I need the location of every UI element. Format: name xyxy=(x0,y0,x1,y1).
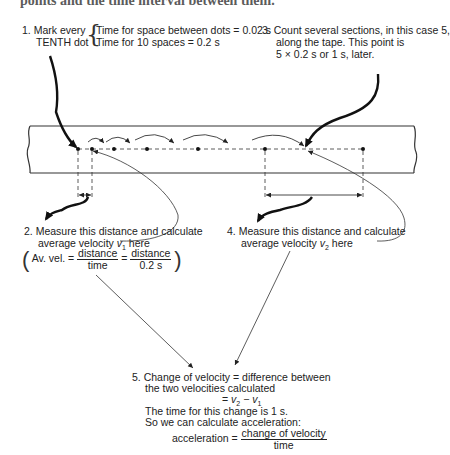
step3-line1: 3. Count several sections, in this case … xyxy=(262,24,450,36)
avg-velocity-formula: ( Av. vel. = distance time = distance 0.… xyxy=(22,248,182,271)
acceleration-label: acceleration = xyxy=(172,432,238,444)
step1-brace-line2: Time for 10 spaces = 0.2 s xyxy=(96,36,220,48)
ticker-tape xyxy=(27,126,417,173)
step1-pointer-arrow xyxy=(50,56,76,147)
step2-number: 2. xyxy=(24,225,33,237)
fraction-distance-0-2s: distance 0.2 s xyxy=(130,248,171,271)
step3-line3: 5 × 0.2 s or 1 s, later. xyxy=(276,48,374,60)
spacing-arcs xyxy=(88,135,304,146)
step1-number: 1. xyxy=(22,24,31,36)
v1-to-step5-arrow xyxy=(96,275,193,368)
step4-pointer-arrow xyxy=(258,197,312,221)
v2-to-step5-arrow xyxy=(235,251,290,365)
step3-pointer-arrow xyxy=(306,74,378,146)
step4-number: 4. xyxy=(227,225,236,237)
formula-label: Av. vel. = xyxy=(32,252,75,264)
step3-number: 3. xyxy=(262,24,271,36)
step5-number: 5. xyxy=(132,371,141,383)
acceleration-formula: acceleration = change of velocity time xyxy=(172,428,327,451)
step1-brace-line1: Time for space between dots = 0.02 s xyxy=(96,24,271,36)
step1-line2: TENTH dot xyxy=(36,36,89,48)
step2-text-line1: Measure this distance and calculate xyxy=(36,225,203,237)
fraction-distance-time: distance time xyxy=(77,248,118,271)
step4-line2: average velocity v2 here xyxy=(241,237,353,254)
step2-line1: 2. Measure this distance and calculate xyxy=(24,225,203,237)
step4-text-line1: Measure this distance and calculate xyxy=(239,225,406,237)
fraction-change-over-time: change of velocity time xyxy=(241,428,327,451)
step3-text-line1: Count several sections, in this case 5, xyxy=(274,24,450,36)
step3-line2: along the tape. This point is xyxy=(276,36,404,48)
step1-label: 1. Mark every xyxy=(22,24,86,36)
step2-pointer-arrow xyxy=(46,197,88,219)
step1-line1: Mark every xyxy=(34,24,86,36)
step4-line1: 4. Measure this distance and calculate xyxy=(227,225,406,237)
